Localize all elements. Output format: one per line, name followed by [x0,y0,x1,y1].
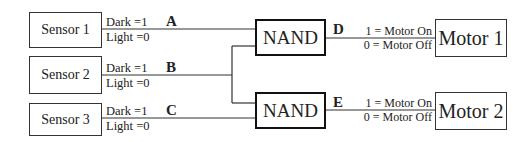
nand-gate-1-label: NAND [263,27,318,49]
signal-b-label: B [166,60,176,75]
sensor-1-dark-label: Dark =1 [106,16,147,29]
motor-1-off-label: 0 = Motor Off [364,39,432,52]
nand-gate-2: NAND [255,92,326,129]
sensor-3-box: Sensor 3 [29,103,102,136]
signal-d-label: D [333,22,344,37]
sensor-3-light-label: Light =0 [106,120,150,133]
nand-gate-2-label: NAND [263,100,318,122]
motor-1-box: Motor 1 [435,19,507,57]
signal-e-label: E [333,95,343,110]
sensor-2-dark-label: Dark =1 [106,62,147,75]
sensor-3-dark-label: Dark =1 [106,105,147,118]
motor-2-on-label: 1 = Motor On [366,97,432,110]
signal-a-label: A [166,14,177,29]
sensor-1-light-label: Light =0 [106,31,150,44]
sensor-1-label: Sensor 1 [41,22,90,38]
motor-1-label: Motor 1 [439,27,504,50]
motor-2-label: Motor 2 [439,100,504,123]
motor-1-on-label: 1 = Motor On [366,25,432,38]
motor-2-box: Motor 2 [435,92,507,130]
motor-2-off-label: 0 = Motor Off [364,111,432,124]
sensor-3-label: Sensor 3 [41,112,90,128]
nand-gate-1: NAND [255,19,326,56]
sensor-2-box: Sensor 2 [29,56,102,94]
sensor-1-box: Sensor 1 [29,12,102,48]
signal-c-label: C [166,103,177,118]
sensor-2-light-label: Light =0 [106,77,150,90]
sensor-2-label: Sensor 2 [41,67,90,83]
